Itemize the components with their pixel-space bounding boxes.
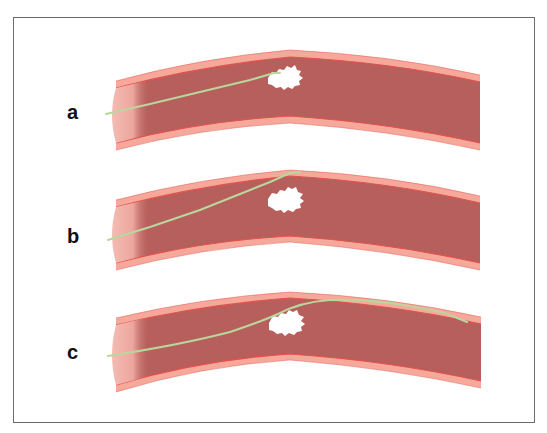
panel-label-b: b (67, 226, 79, 246)
vessel-opening (112, 199, 150, 263)
vessel-diagram (0, 0, 547, 433)
vessel-c (108, 292, 481, 392)
vessel-b (108, 170, 480, 270)
panel-label-a: a (67, 102, 78, 122)
vessel-a (106, 50, 480, 150)
panel-label-c: c (67, 342, 78, 362)
